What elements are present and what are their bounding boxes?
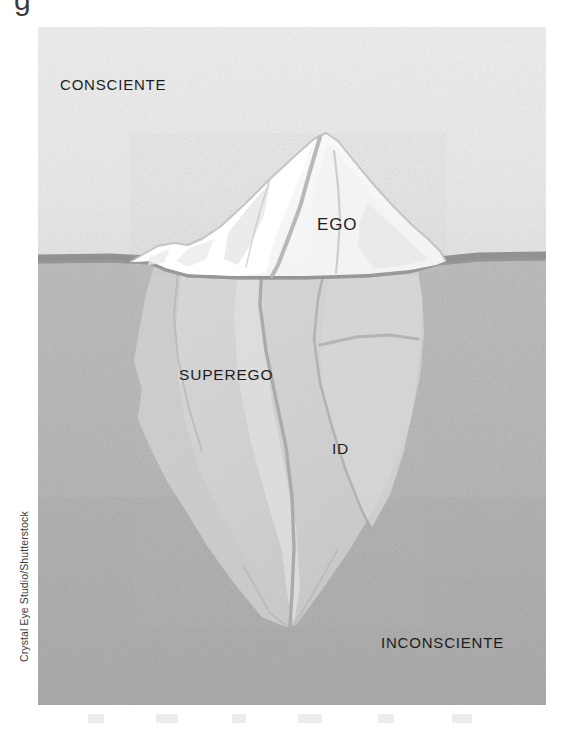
clipped-glyph-above-figure: g xyxy=(14,0,31,17)
label-ego: EGO xyxy=(317,215,357,234)
label-unconscious: INCONSCIENTE xyxy=(381,634,504,651)
caption-ghost xyxy=(60,714,530,723)
label-conscious: CONSCIENTE xyxy=(60,76,166,93)
label-superego: SUPEREGO xyxy=(179,366,273,383)
iceberg-diagram-svg: CONSCIENTE EGO SUPEREGO ID INCONSCIENTE xyxy=(38,27,546,705)
photo-credit: Crystal Eye Studio/Shutterstock xyxy=(18,462,30,662)
label-id: ID xyxy=(332,440,349,457)
iceberg-diagram-panel: CONSCIENTE EGO SUPEREGO ID INCONSCIENTE xyxy=(38,27,546,705)
